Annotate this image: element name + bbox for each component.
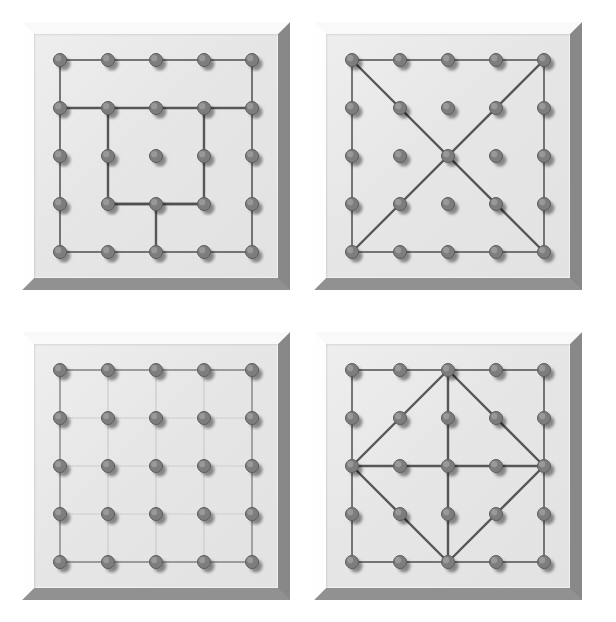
peg-highlight xyxy=(443,103,449,109)
board-band-layer xyxy=(34,34,278,278)
peg-highlight xyxy=(55,247,61,253)
peg-highlight xyxy=(103,151,109,157)
peg-highlight xyxy=(443,413,449,419)
peg-highlight xyxy=(395,151,401,157)
peg-highlight xyxy=(491,199,497,205)
peg-highlight xyxy=(491,557,497,563)
peg-highlight xyxy=(199,509,205,515)
peg-highlight xyxy=(199,151,205,157)
peg-highlight xyxy=(395,365,401,371)
stepped-rectilinear-figure[interactable] xyxy=(22,22,290,290)
peg-highlight xyxy=(103,103,109,109)
peg-highlight xyxy=(443,509,449,515)
peg-highlight xyxy=(539,103,545,109)
inscribed-diamond-with-axes[interactable] xyxy=(314,332,582,600)
peg-highlight xyxy=(395,199,401,205)
peg-highlight xyxy=(395,55,401,61)
peg-highlight xyxy=(347,247,353,253)
peg-highlight xyxy=(443,199,449,205)
peg-highlight xyxy=(395,247,401,253)
peg-highlight xyxy=(491,247,497,253)
peg-highlight xyxy=(103,199,109,205)
peg-highlight xyxy=(443,55,449,61)
peg-highlight xyxy=(491,103,497,109)
peg-highlight xyxy=(55,413,61,419)
peg-highlight xyxy=(491,461,497,467)
peg-highlight xyxy=(247,103,253,109)
peg-highlight xyxy=(347,365,353,371)
peg-highlight xyxy=(151,247,157,253)
peg-highlight xyxy=(151,509,157,515)
peg-highlight xyxy=(199,55,205,61)
square-with-both-diagonals[interactable] xyxy=(314,22,582,290)
peg-highlight xyxy=(55,199,61,205)
peg-highlight xyxy=(151,55,157,61)
board-band-layer xyxy=(326,34,570,278)
peg-highlight xyxy=(103,557,109,563)
peg-highlight xyxy=(347,103,353,109)
peg-highlight xyxy=(443,365,449,371)
peg-highlight xyxy=(539,557,545,563)
peg-highlight xyxy=(443,151,449,157)
peg-highlight xyxy=(247,557,253,563)
peg-highlight xyxy=(199,103,205,109)
peg-highlight xyxy=(491,365,497,371)
peg-highlight xyxy=(151,557,157,563)
peg-highlight xyxy=(55,55,61,61)
peg-highlight xyxy=(491,413,497,419)
peg-highlight xyxy=(151,199,157,205)
peg-highlight xyxy=(55,557,61,563)
peg-highlight xyxy=(539,199,545,205)
peg-highlight xyxy=(347,199,353,205)
peg-highlight xyxy=(151,461,157,467)
peg-highlight xyxy=(395,413,401,419)
peg-highlight xyxy=(347,461,353,467)
peg-highlight xyxy=(103,247,109,253)
peg-highlight xyxy=(151,103,157,109)
peg-highlight xyxy=(347,413,353,419)
peg-highlight xyxy=(247,365,253,371)
peg-highlight xyxy=(103,509,109,515)
peg-highlight xyxy=(55,151,61,157)
peg-highlight xyxy=(443,557,449,563)
peg-highlight xyxy=(347,509,353,515)
peg-highlight xyxy=(395,103,401,109)
peg-highlight xyxy=(539,365,545,371)
board-band-layer xyxy=(326,344,570,588)
peg-highlight xyxy=(395,509,401,515)
peg-highlight xyxy=(199,461,205,467)
peg-highlight xyxy=(103,413,109,419)
peg-highlight xyxy=(347,557,353,563)
peg-highlight xyxy=(539,55,545,61)
peg-highlight xyxy=(539,413,545,419)
board-band-layer xyxy=(34,344,278,588)
full-unit-grid[interactable] xyxy=(22,332,290,600)
peg-highlight xyxy=(539,461,545,467)
peg-highlight xyxy=(395,461,401,467)
peg-highlight xyxy=(199,413,205,419)
geoboard-grid xyxy=(0,0,616,622)
peg-highlight xyxy=(443,461,449,467)
peg-highlight xyxy=(491,55,497,61)
peg-highlight xyxy=(103,461,109,467)
peg-highlight xyxy=(247,151,253,157)
peg-highlight xyxy=(199,247,205,253)
peg-highlight xyxy=(539,247,545,253)
peg-highlight xyxy=(199,365,205,371)
peg-highlight xyxy=(199,557,205,563)
peg-highlight xyxy=(347,55,353,61)
peg-highlight xyxy=(443,247,449,253)
peg-highlight xyxy=(247,461,253,467)
peg-highlight xyxy=(55,365,61,371)
peg-highlight xyxy=(199,199,205,205)
peg-highlight xyxy=(491,151,497,157)
peg-highlight xyxy=(247,55,253,61)
peg-highlight xyxy=(151,151,157,157)
peg-highlight xyxy=(539,151,545,157)
peg-highlight xyxy=(151,365,157,371)
peg-highlight xyxy=(55,461,61,467)
peg-highlight xyxy=(247,413,253,419)
peg-highlight xyxy=(55,509,61,515)
peg-highlight xyxy=(247,199,253,205)
peg-highlight xyxy=(247,247,253,253)
